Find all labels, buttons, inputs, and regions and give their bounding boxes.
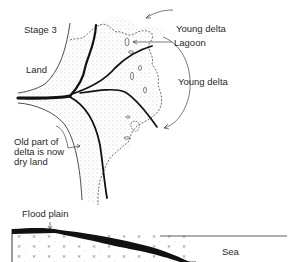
young-delta-top-arrowhead (146, 14, 151, 18)
label-lagoon: Lagoon (174, 38, 206, 48)
young-delta-top-arrow (146, 10, 173, 18)
stage-title: Stage 3 (24, 25, 57, 35)
label-young-delta-top: Young delta (176, 24, 226, 34)
label-sea: Sea (222, 247, 239, 257)
label-young-delta-right: Young delta (178, 77, 228, 87)
label-land: Land (26, 65, 47, 75)
label-old-part-3: dry land (14, 157, 48, 167)
label-flood-plain: Flood plain (22, 209, 68, 219)
delta-diagram: × · (0, 0, 293, 262)
